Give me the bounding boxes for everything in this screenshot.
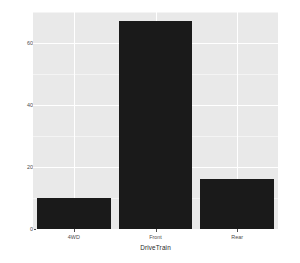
bar-4wd [37, 198, 111, 229]
bar-chart: count 0 20 40 60 4WD Front Rear [0, 0, 300, 263]
bar-front [119, 21, 193, 229]
plot-panel [33, 12, 278, 229]
gridline-vertical-4wd [74, 12, 75, 229]
x-tick-label-4wd: 4WD [50, 233, 98, 241]
x-tick-mark-4wd [74, 229, 75, 232]
y-tick-label-60: 60 [19, 39, 33, 48]
y-tick-label-20: 20 [19, 163, 33, 172]
x-axis: 4WD Front Rear DriveTrain [33, 229, 278, 263]
x-tick-label-front: Front [132, 233, 180, 241]
x-tick-label-rear: Rear [213, 233, 261, 241]
y-tick-label-0: 0 [19, 225, 33, 234]
y-axis: 0 20 40 60 [16, 0, 33, 263]
x-axis-title: DriveTrain [33, 243, 278, 253]
x-tick-mark-rear [237, 229, 238, 232]
bar-rear [200, 179, 274, 229]
x-tick-mark-front [156, 229, 157, 232]
y-tick-label-40: 40 [19, 101, 33, 110]
